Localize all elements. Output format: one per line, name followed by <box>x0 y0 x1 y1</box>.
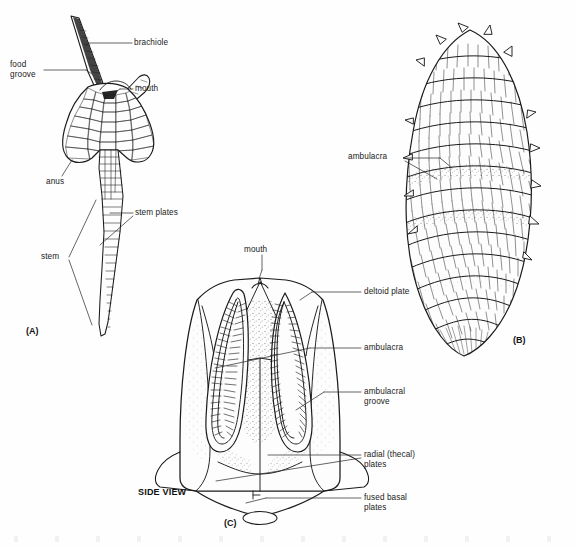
label-brachiole: brachiole <box>134 38 168 48</box>
label-mouth-c: mouth <box>244 245 267 255</box>
leader-stem-2 <box>69 260 92 325</box>
leader-stem-1 <box>69 200 96 257</box>
panel-a-artwork <box>63 16 154 336</box>
label-stem: stem <box>41 252 59 262</box>
label-deltoid-plate: deltoid plate <box>364 287 409 297</box>
figure-plate: brachiole food groove mouth anus stem pl… <box>0 0 577 546</box>
fused-basal-plates-c <box>196 491 324 525</box>
label-fused-basal-plates: fused basal plates <box>364 493 407 514</box>
label-food-groove: food groove <box>10 60 36 81</box>
label-ambulacra-b: ambulacra <box>348 152 387 162</box>
label-anus: anus <box>46 177 64 187</box>
leader-anus <box>62 160 72 176</box>
brachiole-shape <box>71 16 106 94</box>
panel-label-a: (A) <box>26 326 39 336</box>
label-stem-plates: stem plates <box>135 208 178 218</box>
panel-label-c: (C) <box>224 518 237 528</box>
figure-artwork <box>0 0 577 546</box>
label-mouth-a: mouth <box>135 84 158 94</box>
panel-c-artwork <box>156 278 369 525</box>
label-ambulacral-groove: ambulacral groove <box>364 387 405 408</box>
side-view-tag: SIDE VIEW <box>138 487 186 497</box>
panel-b-artwork <box>399 23 542 356</box>
label-ambulacra-c: ambulacra <box>364 343 403 353</box>
panel-label-b: (B) <box>513 335 526 345</box>
theca-b-outline <box>406 30 531 356</box>
label-radial-thecal-plates: radial (thecal) plates <box>364 450 415 471</box>
